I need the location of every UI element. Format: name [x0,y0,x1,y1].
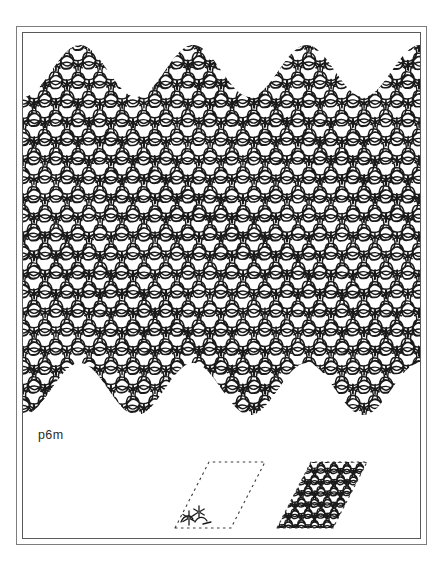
unit-cell-empty [175,462,265,528]
figure-page: p6m [0,0,443,574]
pattern-group-caption: p6m [38,428,64,442]
unit-cell-filled [165,452,375,538]
unit-cell-diagrams [165,452,375,538]
